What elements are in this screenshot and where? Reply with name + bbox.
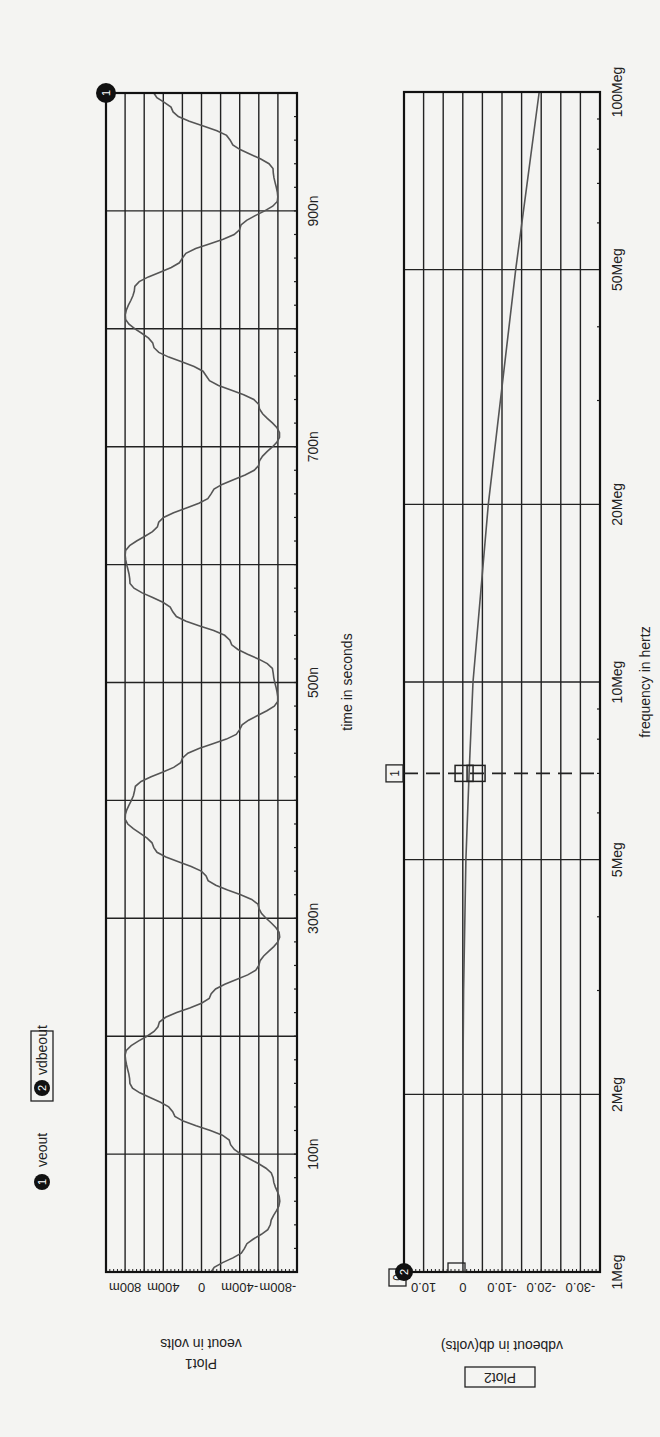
y-tick-label: 800m <box>109 1280 142 1295</box>
y-tick-label: -20.0 <box>526 1280 556 1295</box>
y-tick-label: -30.0 <box>566 1280 596 1295</box>
x-tick-label: 5Meg <box>609 842 625 877</box>
legend-label: vdbeout <box>34 1025 50 1075</box>
x-tick-label: 100Meg <box>609 67 625 118</box>
x-tick-label: 2Meg <box>609 1077 625 1112</box>
plot1-x-axis-label: time in seconds <box>339 633 355 730</box>
legend: 1 veout 2 vdbeout <box>31 1025 53 1190</box>
legend-item-vdbeout[interactable]: 2 vdbeout <box>31 1025 53 1101</box>
x-tick-label: 700n <box>305 431 321 462</box>
plot2-y-axis-label: vdbeout in db(volts) <box>441 1338 563 1354</box>
plot2-grid <box>404 92 600 1272</box>
y-tick-label: -400m <box>221 1280 258 1295</box>
plot2-y-tick-labels: 10.00-10.0-20.0-30.0 <box>411 1280 595 1295</box>
chart-stage: 1 veout 2 vdbeout 800m400m0-400m-800m 10… <box>0 0 660 1437</box>
plot1-transient: 800m400m0-400m-800m 100n300n500n700n900n… <box>96 83 355 1372</box>
trace-2-end-marker-label: 2 <box>398 1269 410 1275</box>
cursor-1[interactable]: 1 <box>386 765 600 782</box>
plot1-y-tick-labels: 800m400m0-400m-800m <box>109 1280 296 1295</box>
plot2-x-tick-labels: 1Meg2Meg5Meg10Meg20Meg50Meg100Meg <box>609 67 625 1290</box>
chart-canvas: 1 veout 2 vdbeout 800m400m0-400m-800m 10… <box>0 0 660 1437</box>
y-tick-label: -800m <box>259 1280 296 1295</box>
plot2-title: Plot2 <box>484 1370 516 1386</box>
y-tick-label: 10.0 <box>411 1280 436 1295</box>
plot1-y-axis-label: veout in volts <box>160 1336 242 1352</box>
cursor-tag-label: 1 <box>388 770 402 777</box>
plot2-ac: 10.00-10.0-20.0-30.0 1Meg2Meg5Meg10Meg20… <box>386 67 653 1387</box>
legend-index: 2 <box>36 1085 48 1091</box>
x-tick-label: 300n <box>305 903 321 934</box>
x-tick-label: 50Meg <box>609 248 625 291</box>
plot1-title: Plot1 <box>185 1356 217 1372</box>
plot2-title-box: Plot2 <box>465 1367 535 1387</box>
x-tick-label: 20Meg <box>609 483 625 526</box>
y-tick-label: 0 <box>198 1280 205 1295</box>
legend-label: veout <box>34 1133 50 1167</box>
x-tick-label: 1Meg <box>609 1254 625 1289</box>
x-tick-label: 900n <box>305 195 321 226</box>
y-tick-label: 400m <box>147 1280 180 1295</box>
plot2-x-axis-label: frequency in hertz <box>637 626 653 737</box>
x-tick-label: 10Meg <box>609 661 625 704</box>
x-tick-label: 500n <box>305 667 321 698</box>
legend-item-veout[interactable]: 1 veout <box>34 1133 50 1190</box>
x-tick-label: 100n <box>305 1139 321 1170</box>
plot1-x-tick-labels: 100n300n500n700n900n <box>305 195 321 1169</box>
plot1-grid <box>106 93 297 1272</box>
legend-index: 1 <box>36 1179 48 1185</box>
y-tick-label: -10.0 <box>487 1280 517 1295</box>
y-tick-label: 0 <box>459 1280 466 1295</box>
trace-1-end-marker-label: 1 <box>100 90 112 96</box>
